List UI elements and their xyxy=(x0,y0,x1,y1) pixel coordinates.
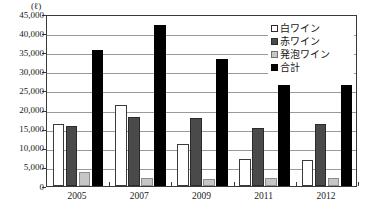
y-axis-tick-label: 35,000 xyxy=(0,49,44,58)
y-axis-tick-label: 5,000 xyxy=(0,163,44,172)
bar-white-wine-2012 xyxy=(302,160,314,186)
legend-swatch-red-wine xyxy=(271,38,278,45)
x-axis-tick-mark xyxy=(109,182,110,186)
bar-sparkling-wine-2005 xyxy=(79,172,91,186)
bar-sparkling-wine-2012 xyxy=(328,178,340,186)
bar-sparkling-wine-2011 xyxy=(265,178,277,186)
x-axis-tick-mark xyxy=(296,182,297,186)
bar-group xyxy=(109,16,171,186)
bar-red-wine-2005 xyxy=(66,126,78,186)
bar-total-2011 xyxy=(278,85,290,186)
legend-swatch-sparkling-wine xyxy=(271,51,278,58)
y-axis-tick-label: 30,000 xyxy=(0,68,44,77)
legend-label: 赤ワイン xyxy=(280,36,320,47)
bar-sparkling-wine-2009 xyxy=(203,179,215,186)
x-axis-tick-label-2009: 2009 xyxy=(170,190,232,202)
bar-group xyxy=(47,16,109,186)
legend-item-red-wine: 赤ワイン xyxy=(271,35,352,48)
x-axis-tick-label-2005: 2005 xyxy=(46,190,108,202)
x-axis-tick-mark xyxy=(234,182,235,186)
y-axis-tick-label: 45,000 xyxy=(0,11,44,20)
bar-white-wine-2011 xyxy=(239,159,251,186)
bar-total-2012 xyxy=(341,85,353,186)
bar-red-wine-2011 xyxy=(252,128,264,187)
bar-group xyxy=(171,16,233,186)
y-axis-tick-label: 0 xyxy=(0,183,44,192)
bar-total-2009 xyxy=(216,59,228,186)
bar-total-2007 xyxy=(154,25,166,186)
legend-swatch-total xyxy=(271,64,278,71)
chart-legend: 白ワイン赤ワイン発泡ワイン合計 xyxy=(268,20,354,76)
legend-swatch-white-wine xyxy=(271,25,278,32)
bar-red-wine-2009 xyxy=(190,118,202,186)
legend-label: 発泡ワイン xyxy=(280,49,330,60)
y-axis-tick-label: 40,000 xyxy=(0,30,44,39)
y-axis-tick-label: 15,000 xyxy=(0,125,44,134)
bar-red-wine-2012 xyxy=(315,124,327,186)
y-axis-tick-label: 20,000 xyxy=(0,106,44,115)
bar-white-wine-2009 xyxy=(177,144,189,186)
x-axis-tick-label-2011: 2011 xyxy=(233,190,295,202)
legend-item-sparkling-wine: 発泡ワイン xyxy=(271,48,352,61)
x-axis-tick-label-2012: 2012 xyxy=(295,190,357,202)
legend-label: 白ワイン xyxy=(280,23,320,34)
bar-red-wine-2007 xyxy=(128,117,140,186)
bar-chart: (ℓ) 05,00010,00015,00020,00025,00030,000… xyxy=(0,0,370,219)
x-axis-labels: 20052007200920112012 xyxy=(46,190,357,210)
y-axis-tick-label: 10,000 xyxy=(0,144,44,153)
legend-label: 合計 xyxy=(280,62,300,73)
y-axis-labels: 05,00010,00015,00020,00025,00030,00035,0… xyxy=(0,15,44,187)
x-axis-tick-label-2007: 2007 xyxy=(108,190,170,202)
bar-white-wine-2007 xyxy=(115,105,127,186)
x-axis-tick-mark xyxy=(358,182,359,186)
legend-item-white-wine: 白ワイン xyxy=(271,22,352,35)
legend-item-total: 合計 xyxy=(271,61,352,74)
bar-white-wine-2005 xyxy=(53,124,65,186)
bar-total-2005 xyxy=(92,50,104,186)
bar-sparkling-wine-2007 xyxy=(141,178,153,186)
y-axis-tick-label: 25,000 xyxy=(0,87,44,96)
x-axis-tick-mark xyxy=(171,182,172,186)
